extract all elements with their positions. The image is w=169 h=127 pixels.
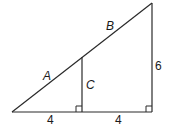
right-angle-marker-inner: [76, 106, 82, 112]
label-a: A: [42, 69, 51, 83]
label-base-left: 4: [47, 113, 54, 127]
label-b: B: [106, 19, 114, 33]
label-outer-height: 6: [155, 59, 162, 73]
label-c: C: [86, 78, 95, 92]
label-base-right: 4: [115, 113, 122, 127]
right-angle-marker-outer: [146, 106, 152, 112]
triangle-diagram: B A C 6 4 4: [0, 0, 169, 127]
